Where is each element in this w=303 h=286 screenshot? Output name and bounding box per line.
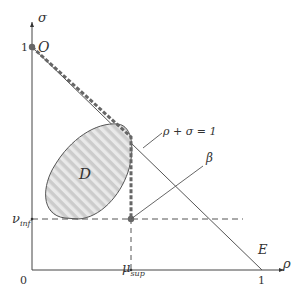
x-axis-label: ρ — [282, 256, 291, 271]
point-o — [29, 44, 35, 50]
beta-label: β — [205, 151, 213, 165]
region-d-label: D — [78, 165, 91, 183]
point-e-label: E — [257, 242, 268, 257]
mu-sup-label: μsup — [122, 260, 145, 278]
nu-inf-label: νinf — [12, 211, 33, 228]
line-label-leader — [143, 133, 162, 148]
diagram-canvas: σ ρ 0 1 1 O E D ρ + σ = 1 β νinf μsup — [0, 0, 303, 286]
x-tick-one-label: 1 — [258, 274, 265, 286]
y-axis-label: σ — [38, 10, 48, 25]
constraint-line-label: ρ + σ = 1 — [162, 125, 216, 138]
beta-leader — [131, 166, 203, 219]
point-o-label: O — [38, 39, 50, 55]
origin-label: 0 — [20, 274, 27, 286]
nu-inf-tick — [31, 218, 34, 221]
y-tick-one-label: 1 — [21, 41, 28, 54]
